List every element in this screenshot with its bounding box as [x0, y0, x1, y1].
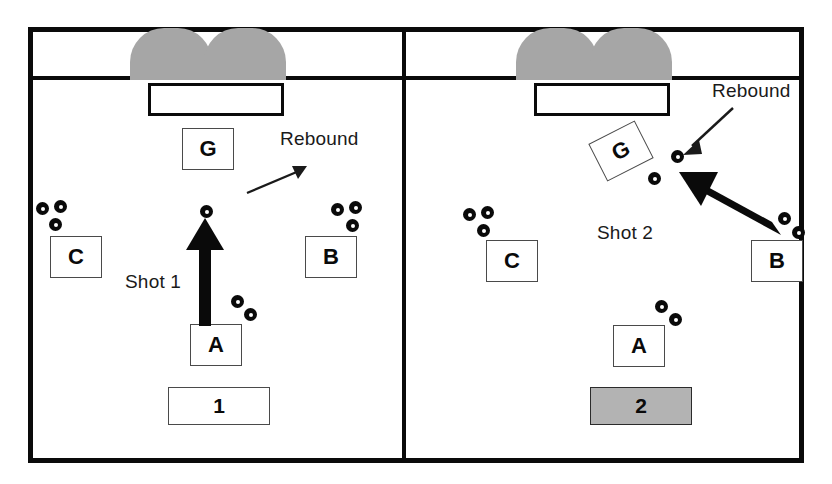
puck: [346, 219, 359, 232]
goalie-box-panel-1: G: [182, 128, 234, 170]
puck: [244, 308, 257, 321]
puck: [331, 203, 344, 216]
player-box-c-panel-2: C: [486, 240, 538, 282]
puck: [463, 208, 476, 221]
puck: [54, 200, 67, 213]
goal-crease-panel-2: [534, 83, 670, 116]
goal-arch-left: [130, 28, 212, 80]
player-box-a-panel-2: A: [613, 325, 665, 367]
puck: [349, 201, 362, 214]
panel-number-box-2: 2: [590, 387, 692, 425]
puck: [481, 206, 494, 219]
puck-rebound-panel-2: [671, 150, 684, 163]
player-box-a-panel-1: A: [190, 324, 242, 366]
player-box-b-panel-1: B: [305, 236, 357, 278]
shot-2-label: Shot 2: [597, 222, 653, 244]
goal-arch-left: [516, 28, 598, 80]
goal-crease-panel-1: [148, 83, 284, 116]
goal-cage-panel-2: [516, 28, 672, 80]
puck: [36, 202, 49, 215]
panel-number-box-1: 1: [168, 387, 270, 425]
puck: [231, 295, 244, 308]
player-box-b-panel-2: B: [751, 240, 803, 282]
puck-shot-target-panel-1: [200, 205, 213, 218]
puck: [778, 212, 791, 225]
goal-arch-right: [590, 28, 672, 80]
rebound-label-panel-1: Rebound: [280, 128, 359, 150]
puck: [49, 218, 62, 231]
player-box-c-panel-1: C: [50, 236, 102, 278]
goal-arch-right: [204, 28, 286, 80]
puck-shot-target-panel-2: [648, 172, 661, 185]
goal-cage-panel-1: [130, 28, 286, 80]
shot-1-label: Shot 1: [125, 271, 181, 293]
rebound-label-panel-2: Rebound: [712, 80, 791, 102]
diagram-canvas: G Rebound C B A Shot 1 1 G Rebound C B A…: [0, 0, 832, 484]
puck: [477, 224, 490, 237]
puck: [655, 300, 668, 313]
panel-divider: [402, 27, 406, 463]
puck: [669, 313, 682, 326]
puck: [792, 226, 805, 239]
